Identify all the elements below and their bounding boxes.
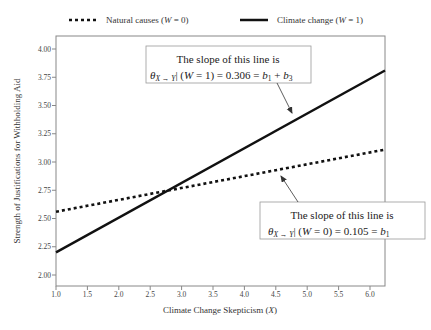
x-tick-label: 4.0 xyxy=(240,290,250,299)
y-tick-label: 4.00 xyxy=(38,45,51,54)
x-tick-label: 4.5 xyxy=(271,290,281,299)
x-tick-label: 5.0 xyxy=(303,290,313,299)
legend-label-climate-change: Climate change (W = 1) xyxy=(277,15,363,25)
x-tick-label: 3.5 xyxy=(208,290,218,299)
x-axis-title: Climate Change Skepticism (X) xyxy=(163,305,277,315)
y-tick-label: 3.25 xyxy=(38,129,51,138)
x-tick-label: 1.5 xyxy=(83,290,93,299)
x-tick-label: 6.0 xyxy=(365,290,375,299)
y-tick-label: 3.00 xyxy=(38,158,51,167)
annotation-bottom-line1: The slope of this line is xyxy=(291,209,394,221)
x-tick-label: 2.5 xyxy=(146,290,156,299)
y-tick-label: 3.50 xyxy=(38,101,51,110)
y-axis: 2.002.252.502.753.003.253.503.754.00 xyxy=(38,45,56,280)
legend: Natural causes (W = 0) Climate change (W… xyxy=(69,15,363,25)
y-tick-label: 2.00 xyxy=(38,271,51,280)
legend-label-natural-causes: Natural causes (W = 0) xyxy=(106,15,189,25)
chart: Natural causes (W = 0) Climate change (W… xyxy=(0,0,431,330)
legend-item-climate-change: Climate change (W = 1) xyxy=(240,15,363,25)
x-axis: 1.01.52.02.53.03.54.04.55.05.56.0 xyxy=(51,286,375,299)
y-tick-label: 2.25 xyxy=(38,242,51,251)
x-tick-label: 2.0 xyxy=(114,290,124,299)
y-tick-label: 3.75 xyxy=(38,73,51,82)
y-axis-title: Strength of Justifications for Withholdi… xyxy=(12,78,22,244)
x-tick-label: 5.5 xyxy=(334,290,344,299)
y-tick-label: 2.75 xyxy=(38,186,51,195)
annotation-top-line1: The slope of this line is xyxy=(177,53,280,65)
x-tick-label: 3.0 xyxy=(177,290,187,299)
legend-item-natural-causes: Natural causes (W = 0) xyxy=(69,15,189,25)
y-tick-label: 2.50 xyxy=(38,214,51,223)
x-tick-label: 1.0 xyxy=(51,290,61,299)
